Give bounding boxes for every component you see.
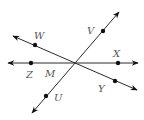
label-x: X — [112, 48, 121, 59]
point-x — [116, 61, 120, 65]
label-z: Z — [25, 69, 34, 80]
point-u — [44, 94, 48, 98]
point-y — [113, 79, 117, 83]
label-u: U — [54, 92, 63, 103]
point-z — [29, 61, 33, 65]
label-v: V — [87, 25, 96, 36]
label-w: W — [34, 30, 45, 41]
point-w — [33, 43, 37, 47]
label-y: Y — [98, 83, 106, 94]
label-m: M — [44, 68, 56, 79]
point-v — [101, 29, 105, 33]
intersecting-lines-diagram: W V X Z M Y U — [0, 0, 144, 120]
